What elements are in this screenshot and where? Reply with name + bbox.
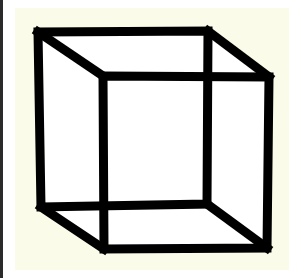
necker-cube: [0, 0, 300, 278]
cube-interior: [38, 31, 269, 249]
